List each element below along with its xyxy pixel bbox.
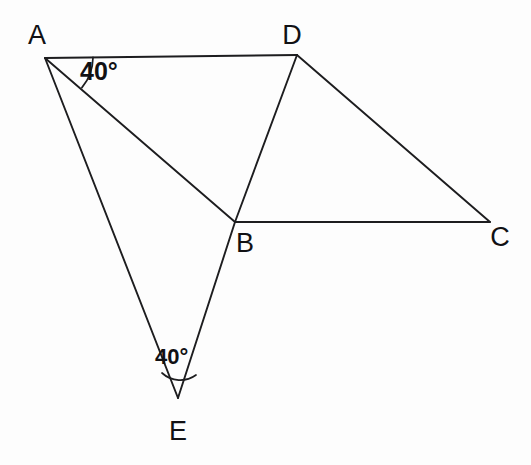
vertex-label-E: E <box>169 416 187 446</box>
angle-arc-at-E <box>162 373 196 380</box>
vertex-label-C: C <box>490 222 510 252</box>
vertex-label-B: B <box>236 228 254 258</box>
vertex-label-A: A <box>28 20 46 50</box>
angle-label-at-E: 40° <box>155 344 188 369</box>
vertex-label-D: D <box>282 20 302 50</box>
figure-canvas: A D B C E 40° 40° <box>0 0 531 465</box>
segment-DC <box>297 55 490 222</box>
geometry-figure: A D B C E 40° 40° <box>0 0 531 465</box>
angle-label-at-A: 40° <box>80 57 118 85</box>
segment-DB <box>235 55 297 222</box>
segment-AB <box>45 58 235 222</box>
segment-BE <box>178 222 235 398</box>
